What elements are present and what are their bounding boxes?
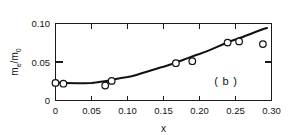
y-tick-label: 0.10 bbox=[32, 18, 51, 29]
data-point bbox=[173, 60, 180, 67]
data-point bbox=[260, 41, 267, 48]
data-point bbox=[60, 80, 67, 87]
y-axis-title-denominator: m bbox=[9, 52, 20, 60]
data-point bbox=[189, 58, 196, 65]
y-axis-title: me/m0 bbox=[9, 48, 22, 75]
x-tick-labels: 0 0.05 0.10 0.15 0.20 0.25 0.30 bbox=[53, 105, 281, 116]
data-point bbox=[102, 82, 109, 89]
x-axis-title: x bbox=[161, 123, 166, 134]
svg-text:me/m0: me/m0 bbox=[9, 48, 22, 75]
chart-canvas: 0 0.05 0.10 0.15 0.20 0.25 0.30 0 0.05 0… bbox=[0, 0, 293, 135]
x-tick-label: 0.20 bbox=[190, 105, 209, 116]
y-axis-title-numerator: m bbox=[9, 67, 20, 75]
x-tick-label: 0.25 bbox=[226, 105, 245, 116]
data-point bbox=[52, 80, 59, 87]
x-tick-label: 0.10 bbox=[118, 105, 137, 116]
y-tick-labels: 0 0.05 0.10 bbox=[32, 18, 51, 106]
data-point bbox=[108, 78, 115, 85]
x-tick-label: 0.05 bbox=[82, 105, 101, 116]
x-tick-label: 0 bbox=[53, 105, 58, 116]
y-tick-label: 0 bbox=[45, 95, 50, 106]
plot-frame bbox=[56, 24, 272, 101]
axes-frame bbox=[56, 24, 272, 101]
y-tick-label: 0.05 bbox=[32, 57, 51, 68]
figure-panel-b: 0 0.05 0.10 0.15 0.20 0.25 0.30 0 0.05 0… bbox=[0, 0, 293, 135]
x-tick-label: 0.15 bbox=[154, 105, 173, 116]
panel-label: ( b ) bbox=[214, 75, 238, 87]
data-point bbox=[224, 39, 231, 46]
y-axis-title-denominator-sub: 0 bbox=[15, 48, 22, 52]
x-tick-label: 0.30 bbox=[262, 105, 281, 116]
x-axis-ticks bbox=[92, 96, 236, 101]
data-point bbox=[236, 38, 243, 45]
x-axis-ticks-top bbox=[92, 24, 236, 29]
